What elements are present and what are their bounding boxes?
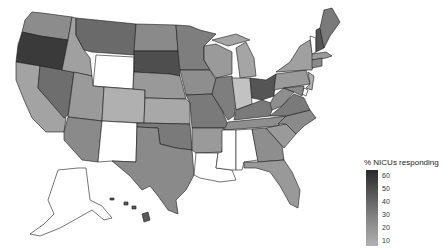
state-montana [76, 18, 136, 55]
state-new-mexico [98, 121, 137, 162]
state-maine [320, 8, 340, 48]
legend-tick: 30 [382, 211, 390, 218]
state-north-dakota [134, 24, 178, 51]
state-connecticut [312, 58, 322, 68]
state-alaska [30, 168, 112, 236]
legend-tick: 50 [382, 185, 390, 192]
state-florida [244, 160, 300, 208]
legend-tick: 10 [382, 237, 390, 244]
state-iowa [180, 70, 216, 95]
state-arizona [64, 117, 102, 162]
legend-title: % NICUs responding [364, 158, 439, 167]
state-colorado [102, 87, 145, 123]
state-kansas [144, 98, 190, 124]
legend-tick: 20 [382, 224, 390, 231]
state-ohio [250, 74, 276, 100]
state-arkansas [192, 128, 224, 153]
state-hawaii [110, 198, 150, 222]
map-legend: % NICUs responding 60 50 40 30 20 10 [364, 158, 447, 248]
state-new-york [276, 40, 314, 72]
legend-tick: 40 [382, 198, 390, 205]
legend-tick: 60 [382, 172, 390, 179]
legend-color-bar [366, 170, 378, 246]
state-wyoming [93, 55, 134, 89]
